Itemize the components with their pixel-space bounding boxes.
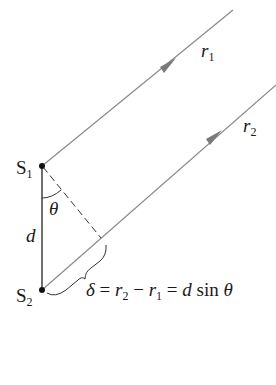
label-r2: r2 xyxy=(243,116,256,138)
eq-r1: r xyxy=(149,279,156,300)
path-difference-equation: δ = r2 − r1 = d sin θ xyxy=(86,280,233,302)
label-s1: S1 xyxy=(16,158,33,180)
label-s1-sub: 1 xyxy=(27,167,33,181)
ray-r2-line xyxy=(42,85,276,290)
label-theta: θ xyxy=(49,199,58,218)
label-s1-main: S xyxy=(16,157,27,178)
source-s1-dot xyxy=(39,163,45,169)
eq-equals-1: = xyxy=(95,279,115,300)
label-d: d xyxy=(26,226,36,245)
theta-angle-arc xyxy=(42,190,61,198)
ray-r1-arrow-icon xyxy=(160,58,176,73)
label-s2-main: S xyxy=(16,285,27,306)
label-s2-sub: 2 xyxy=(27,295,33,309)
label-r1-sub: 1 xyxy=(208,50,214,64)
label-r2-sub: 2 xyxy=(250,125,256,139)
eq-theta: θ xyxy=(224,279,233,300)
eq-equals-2: = xyxy=(162,279,182,300)
eq-d: d xyxy=(182,279,192,300)
source-s2-dot xyxy=(39,287,45,293)
label-s2: S2 xyxy=(16,286,33,308)
double-slit-geometry-diagram xyxy=(0,0,276,385)
eq-minus: − xyxy=(128,279,148,300)
ray-r1-line xyxy=(42,10,233,166)
eq-delta: δ xyxy=(86,279,95,300)
label-r1: r1 xyxy=(201,41,214,63)
ray-r2-arrow-icon xyxy=(206,130,222,145)
eq-sin: sin xyxy=(192,279,224,300)
